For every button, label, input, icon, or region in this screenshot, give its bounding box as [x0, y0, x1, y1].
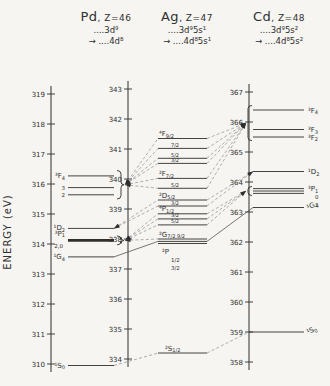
- axis-tick-label: 362: [230, 239, 243, 247]
- axis-tick-label: 310: [32, 361, 45, 369]
- axis-tick-label: 336: [109, 296, 123, 304]
- axis-tick-label: 363: [230, 209, 243, 217]
- axis-tick-label: 319: [32, 91, 45, 99]
- axis-tick-label: 343: [109, 86, 122, 94]
- connector-line: [207, 123, 246, 163]
- level-term-label: ³P1: [308, 185, 318, 194]
- axis-tick-label: 335: [109, 326, 122, 334]
- axis-tick-label: 359: [230, 329, 243, 337]
- axis-tick-label: 316: [32, 181, 46, 189]
- level-term-label: ²S1/2: [165, 345, 180, 354]
- axis-tick-label: 314: [32, 241, 46, 249]
- axis-tick-label: 364: [230, 179, 244, 187]
- level-term-label: ¹S0: [305, 325, 318, 337]
- element-title: Ag, Z=47: [137, 10, 237, 25]
- config-final: → ....4d⁸5s¹: [137, 37, 237, 47]
- atomic-number: , Z=48: [271, 13, 305, 23]
- level-term-label: ⁴F9/2: [159, 130, 174, 139]
- axis-tick-label: 315: [32, 211, 45, 219]
- level-term-label: ¹D2: [308, 168, 319, 177]
- axis-tick-label: 358: [230, 359, 243, 367]
- axis-tick-label: 339: [109, 206, 122, 214]
- level-term-label: 3/2: [171, 265, 180, 271]
- atomic-number: , Z=47: [179, 13, 213, 23]
- level-term-label: 2: [62, 192, 66, 198]
- axis-tick-label: 361: [230, 269, 243, 277]
- axis-tick-label: 317: [32, 151, 45, 159]
- axis-tick-label: 340: [109, 176, 122, 184]
- arrowhead-icon: [241, 190, 248, 196]
- level-j-label: 5/2: [171, 218, 179, 224]
- level-term-label: 2,0: [54, 243, 63, 249]
- axis-tick-label: 318: [32, 121, 45, 129]
- axis-tick-label: 313: [32, 271, 45, 279]
- config-final: → ....4d⁸5s²: [229, 37, 329, 47]
- level-term-label: ²F7/2: [159, 170, 174, 179]
- level-j-label: 3/2: [171, 200, 179, 206]
- level-term-label: 2: [315, 202, 319, 208]
- level-term-label: 1/2: [171, 257, 180, 263]
- level-term-label: 0: [315, 194, 319, 200]
- energy-axis-label: ENERGY (eV): [2, 162, 16, 302]
- atomic-number: , Z=46: [98, 13, 132, 23]
- connector-line: [207, 123, 246, 148]
- level-j-label: 5/2: [171, 182, 179, 188]
- axis-tick-label: 367: [230, 89, 243, 97]
- figure-canvas: 3103113123133143153163173183193343353363…: [0, 0, 330, 386]
- connector-line: [114, 200, 158, 228]
- connector-line: [125, 139, 158, 185]
- axis-tick-label: 312: [32, 301, 45, 309]
- level-j-label: 3/2: [171, 157, 179, 163]
- element-symbol: Ag: [161, 9, 179, 24]
- energy-level-diagram: 3103113123133143153163173183193343353363…: [0, 0, 330, 386]
- element-symbol: Pd: [81, 9, 98, 24]
- config-initial: ....3d⁹5s²: [229, 26, 329, 36]
- element-title: Cd, Z=48: [229, 10, 329, 25]
- level-term-label: ³F2: [308, 134, 318, 143]
- column-header-ag: Ag, Z=47 ....3d⁹5s¹ → ....4d⁸5s¹: [137, 10, 237, 46]
- connector-line: [207, 172, 253, 207]
- level-term-label: ¹G4: [54, 253, 65, 262]
- level-term-label: ²G7/2,9/2: [159, 231, 185, 240]
- connector-line: [125, 158, 158, 184]
- axis-tick-label: 334: [109, 356, 123, 364]
- column-header-cd: Cd, Z=48 ....3d⁹5s² → ....4d⁸5s²: [229, 10, 329, 46]
- axis-tick-label: 365: [230, 149, 243, 157]
- level-term-label: ²P: [162, 248, 169, 256]
- axis-tick-label: 360: [230, 299, 243, 307]
- config-initial: ....3d⁹5s¹: [137, 26, 237, 36]
- connector-line: [125, 219, 158, 241]
- axis-tick-label: 311: [32, 331, 45, 339]
- axis-tick-label: 337: [109, 266, 122, 274]
- arrowhead-icon: [247, 170, 254, 176]
- level-term-label: 3: [62, 185, 66, 191]
- element-symbol: Cd: [253, 9, 271, 24]
- level-j-label: 7/2: [171, 142, 179, 148]
- axis-tick-label: 342: [109, 116, 122, 124]
- connector-line: [125, 214, 158, 241]
- level-term-label: ¹S0: [55, 362, 65, 371]
- level-term-label: ³F4: [55, 172, 65, 181]
- axis-tick-label: 341: [109, 146, 122, 154]
- connector-line: [207, 172, 253, 201]
- level-term-label: ³F4: [308, 107, 318, 116]
